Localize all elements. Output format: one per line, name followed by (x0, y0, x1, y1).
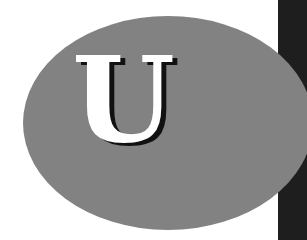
drop-cap-letter: U (72, 40, 162, 160)
